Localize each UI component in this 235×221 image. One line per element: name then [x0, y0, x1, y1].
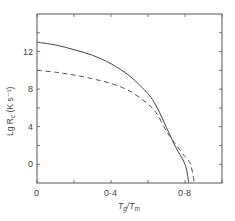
- data-curves: [37, 42, 194, 182]
- chart: 00·40·804812 Tg/Tm Lg Rc (K s⁻¹): [0, 0, 235, 221]
- y-tick-label: 12: [23, 47, 33, 57]
- y-axis-label: Lg Rc (K s⁻¹): [5, 86, 16, 136]
- x-axis-label: Tg/Tm: [118, 201, 140, 213]
- y-tick-label: 0: [28, 159, 33, 169]
- tick-labels: 00·40·804812: [23, 47, 191, 198]
- x-tick-label: 0·8: [178, 188, 191, 198]
- y-tick-label: 4: [28, 122, 33, 132]
- x-tick-label: 0·4: [104, 188, 117, 198]
- x-tick-label: 0: [34, 188, 39, 198]
- plot-frame: [37, 14, 222, 183]
- axes-box: [37, 14, 222, 183]
- dashed-curve: [37, 70, 194, 182]
- axis-ticks: [37, 14, 222, 183]
- y-tick-label: 8: [28, 84, 33, 94]
- solid-curve: [37, 42, 189, 182]
